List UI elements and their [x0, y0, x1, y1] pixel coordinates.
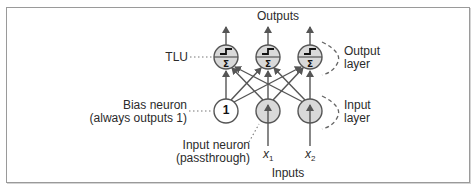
connection-lines	[226, 67, 310, 102]
input-layer-bracket	[322, 96, 339, 129]
input-layer-label: Input layer	[344, 99, 371, 125]
outputs-title: Outputs	[248, 10, 308, 23]
sum-icon: Σ	[223, 59, 229, 69]
bias-neuron-label: Bias neuron (always outputs 1)	[80, 99, 187, 125]
input-neuron-1	[256, 99, 280, 123]
layer-brackets	[322, 42, 339, 129]
output-neuron-3: Σ	[298, 45, 322, 69]
input-x1: x1	[263, 148, 273, 165]
bias-value: 1	[216, 104, 236, 117]
output-arrows	[226, 27, 310, 45]
sum-icon: Σ	[307, 59, 313, 69]
input-neuron-label: Input neuron (passthrough)	[168, 139, 250, 165]
output-neuron-2: Σ	[256, 45, 280, 69]
input-neuron-2	[298, 99, 322, 123]
tlu-label: TLU	[150, 51, 188, 64]
output-layer-label: Output layer	[344, 45, 380, 71]
output-layer-bracket	[322, 42, 339, 75]
sum-icon: Σ	[265, 59, 271, 69]
input-x2: x2	[305, 148, 315, 165]
output-neuron-1: Σ	[214, 45, 238, 69]
inputs-title: Inputs	[258, 167, 318, 180]
